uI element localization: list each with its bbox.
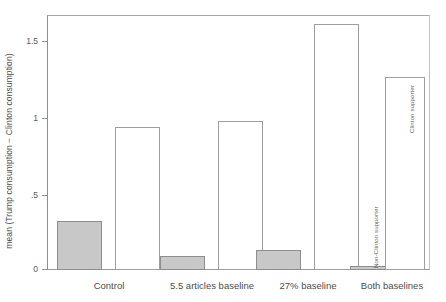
bar-control-clinton <box>115 127 160 270</box>
bar-chart: mean (Trump consumption − Clinton consum… <box>0 0 446 302</box>
y-tick-label-1.5: 1.5 <box>26 37 38 46</box>
bar-both-clinton <box>385 77 425 270</box>
y-tick-label-0: 0 <box>33 265 38 274</box>
x-category-label-27-baseline: 27% baseline <box>279 280 336 291</box>
bar-articles-clinton <box>218 121 263 270</box>
y-tick-label-0.5: .5 <box>31 191 38 200</box>
y-axis-title: mean (Trump consumption − Clinton consum… <box>0 0 18 302</box>
bar-27-non-clinton <box>256 250 301 270</box>
y-tick-mark-1 <box>42 118 48 119</box>
annotation-clinton-supporter: Clinton supporter <box>408 85 415 133</box>
x-category-label-control: Control <box>94 280 125 291</box>
y-tick-mark-1.5 <box>42 41 48 42</box>
bar-control-non-clinton <box>57 221 102 270</box>
x-category-label-both-baselines: Both baselines <box>361 280 423 291</box>
y-tick-mark-0.5 <box>42 195 48 196</box>
annotation-non-clinton-supporter: Non-Clinton supporter <box>372 206 379 268</box>
bar-articles-non-clinton <box>160 256 205 270</box>
y-tick-mark-0 <box>42 269 48 270</box>
x-category-label-articles-baseline: 5.5 articles baseline <box>170 280 254 291</box>
y-tick-label-1: 1 <box>33 114 38 123</box>
bar-27-clinton <box>314 24 359 270</box>
